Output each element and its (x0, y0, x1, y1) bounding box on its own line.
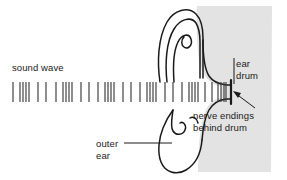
label-outer-ear: outerear (96, 138, 118, 161)
label-outer-ear-line2: ear (96, 150, 110, 161)
ear-diagram-figure: sound wave eardrum nerve endingsbehind d… (0, 0, 287, 180)
head-shaded-region (197, 6, 272, 172)
label-nerve-endings: nerve endingsbehind drum (193, 110, 254, 133)
label-outer-ear-line1: outer (96, 138, 118, 149)
label-sound-wave: sound wave (12, 62, 64, 74)
label-ear-drum-line2: drum (236, 70, 258, 81)
ear-diagram-canvas (0, 0, 287, 180)
label-ear-drum-line1: ear (236, 58, 250, 69)
sound-wave-lines (13, 82, 226, 102)
label-nerve-line2: behind drum (193, 122, 247, 133)
label-nerve-line1: nerve endings (193, 110, 254, 121)
label-ear-drum: eardrum (236, 58, 258, 81)
